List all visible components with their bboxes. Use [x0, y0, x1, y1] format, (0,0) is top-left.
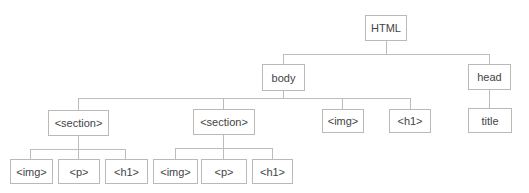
node-section-1: <section>	[48, 110, 109, 136]
connector-body-bar	[78, 98, 411, 99]
node-s2-h1: <h1>	[252, 159, 293, 184]
node-title: title	[468, 108, 512, 133]
connector-to-body-h1	[410, 98, 411, 109]
node-body-img: <img>	[322, 109, 364, 133]
connector-html-bar	[283, 54, 490, 55]
connector-section2-stem	[223, 134, 224, 148]
connector-to-s2-h1	[272, 148, 273, 159]
connector-to-section1	[78, 98, 79, 110]
connector-to-head	[489, 54, 490, 64]
connector-body-stem	[283, 90, 284, 98]
connector-to-body-img	[342, 98, 343, 109]
connector-head-to-title	[489, 89, 490, 108]
dom-tree-diagram: HTML body head <section> <section> <img>…	[0, 0, 529, 193]
connector-to-s2-img	[175, 148, 176, 159]
connector-section2-bar	[175, 148, 273, 149]
node-s1-p: <p>	[58, 159, 100, 184]
node-html: HTML	[365, 15, 407, 41]
node-head: head	[468, 64, 511, 90]
node-s2-img: <img>	[153, 159, 198, 184]
node-section-2: <section>	[193, 109, 255, 135]
node-s2-p: <p>	[201, 159, 247, 184]
node-s1-h1: <h1>	[105, 159, 148, 184]
connector-to-section2	[223, 98, 224, 109]
connector-to-body	[283, 54, 284, 64]
connector-to-s2-p	[223, 148, 224, 159]
node-body: body	[262, 64, 305, 91]
connector-to-s1-h1	[125, 149, 126, 159]
connector-html-stem	[386, 40, 387, 54]
connector-to-s1-img	[30, 149, 31, 159]
node-s1-img: <img>	[10, 159, 53, 184]
connector-to-s1-p	[78, 149, 79, 159]
connector-section1-stem	[78, 135, 79, 149]
node-body-h1: <h1>	[389, 109, 431, 133]
